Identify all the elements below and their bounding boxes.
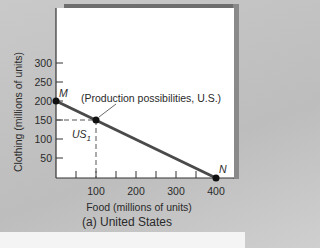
- xtick-200: 200: [127, 185, 145, 197]
- xtick-100: 100: [87, 185, 105, 197]
- chart: 300 250 200 150 100 50 100 200 300 400 C…: [0, 0, 245, 248]
- callout-label: (Production possibilities, U.S.): [81, 92, 221, 104]
- xtick-300: 300: [167, 185, 185, 197]
- ytick-300: 300: [34, 57, 52, 69]
- point-us1: [93, 117, 100, 124]
- chart-caption: (a) United States: [82, 215, 172, 229]
- label-us1-sub: 1: [87, 134, 91, 143]
- y-axis-title: Clothing (millions of units): [12, 52, 24, 172]
- label-m: M: [59, 87, 68, 99]
- point-n: [213, 175, 220, 182]
- x-axis-title: Food (millions of units): [86, 201, 192, 213]
- xtick-400: 400: [207, 185, 225, 197]
- ytick-200: 200: [34, 95, 52, 107]
- label-us1-main: US: [72, 128, 87, 140]
- ytick-100: 100: [34, 133, 52, 145]
- label-n: N: [219, 163, 227, 175]
- ytick-50: 50: [40, 152, 52, 164]
- ytick-250: 250: [34, 76, 52, 88]
- ytick-150: 150: [34, 114, 52, 126]
